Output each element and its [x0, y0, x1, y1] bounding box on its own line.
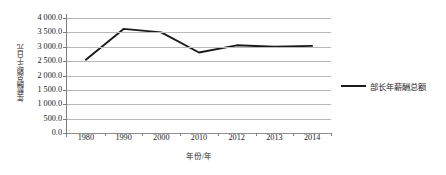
- y-tick-label-1500: 1 500.0: [37, 86, 62, 94]
- x-tick-label-2014: 2014: [304, 134, 320, 142]
- chart-figure: 年薪酬总额/千日元 0.0500.01 000.01 500.02 000.02…: [0, 0, 446, 175]
- y-tick-label-0: 0.0: [52, 129, 62, 137]
- y-tick-label-4000: 4 000.0: [37, 14, 62, 22]
- y-axis-tick-labels: 0.0500.01 000.01 500.02 000.02 500.03 00…: [24, 12, 64, 138]
- x-tick-2014: [331, 133, 332, 136]
- plot-area: [67, 18, 331, 133]
- y-tick-1500: [63, 90, 67, 91]
- y-tick-label-1000: 1 000.0: [37, 100, 62, 108]
- x-tick-label-2000: 2000: [153, 134, 169, 142]
- series-path: [86, 29, 312, 60]
- gridline-1000: [67, 104, 331, 105]
- gridline-4000: [67, 18, 331, 19]
- x-axis-title: 年份/年: [67, 150, 331, 161]
- y-tick-3500: [63, 32, 67, 33]
- chart-legend: 部长年薪酬总额: [341, 80, 426, 92]
- x-tick-label-1980: 1980: [78, 134, 94, 142]
- y-tick-label-2000: 2 000.0: [37, 71, 62, 79]
- y-tick-label-3000: 3 000.0: [37, 43, 62, 51]
- y-tick-label-3500: 3 500.0: [37, 28, 62, 36]
- y-tick-label-500: 500.0: [44, 115, 62, 123]
- y-tick-4000: [63, 18, 67, 19]
- y-tick-500: [63, 119, 67, 120]
- y-tick-1000: [63, 104, 67, 105]
- y-tick-2500: [63, 61, 67, 62]
- gridline-3500: [67, 32, 331, 33]
- legend-label: 部长年薪酬总额: [370, 80, 426, 92]
- gridline-2000: [67, 76, 331, 77]
- x-axis-tick-labels: 1980199020002010201220132014: [67, 134, 331, 148]
- gridline-500: [67, 119, 331, 120]
- y-tick-label-2500: 2 500.0: [37, 57, 62, 65]
- x-tick-label-2012: 2012: [229, 134, 245, 142]
- y-tick-3000: [63, 47, 67, 48]
- y-tick-2000: [63, 76, 67, 77]
- legend-swatch-line: [341, 85, 366, 87]
- x-tick-label-2010: 2010: [191, 134, 207, 142]
- gridline-3000: [67, 47, 331, 48]
- gridline-1500: [67, 90, 331, 91]
- gridline-2500: [67, 61, 331, 62]
- x-tick-label-2013: 2013: [266, 134, 282, 142]
- x-tick-label-1990: 1990: [115, 134, 131, 142]
